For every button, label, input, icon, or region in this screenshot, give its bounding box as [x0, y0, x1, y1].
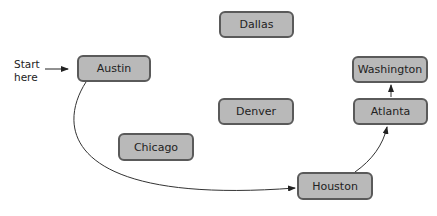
- node-chicago: Chicago: [118, 133, 194, 161]
- node-houston: Houston: [297, 172, 373, 200]
- node-label: Atlanta: [371, 105, 410, 118]
- node-label: Denver: [236, 105, 276, 118]
- node-label: Dallas: [240, 18, 274, 31]
- start-label: Start here: [14, 58, 44, 84]
- start-label-line-2: here: [14, 71, 44, 84]
- route-diagram: Start here Austin Dallas Washington Atla…: [0, 0, 437, 216]
- edge-houston-atlanta: [355, 127, 387, 172]
- node-dallas: Dallas: [219, 11, 294, 38]
- node-austin: Austin: [77, 55, 151, 82]
- node-atlanta: Atlanta: [353, 98, 428, 125]
- node-denver: Denver: [218, 98, 294, 125]
- node-label: Chicago: [134, 141, 178, 154]
- node-label: Washington: [358, 63, 423, 76]
- node-label: Houston: [312, 180, 358, 193]
- node-label: Austin: [97, 62, 132, 75]
- node-washington: Washington: [352, 56, 428, 83]
- start-label-line-1: Start: [14, 58, 44, 71]
